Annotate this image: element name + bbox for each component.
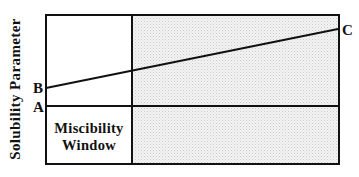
miscibility-window-label-line2: Window	[62, 137, 116, 153]
point-label-b: B	[33, 80, 43, 96]
point-label-a: A	[33, 99, 44, 115]
point-label-c: C	[342, 22, 353, 38]
y-axis-label: Solubility Parameter	[7, 18, 23, 160]
miscibility-window-label-line1: Miscibility	[54, 120, 124, 136]
shaded-region	[132, 15, 339, 164]
solubility-diagram: B A C Miscibility Window Solubility Para…	[0, 0, 359, 177]
